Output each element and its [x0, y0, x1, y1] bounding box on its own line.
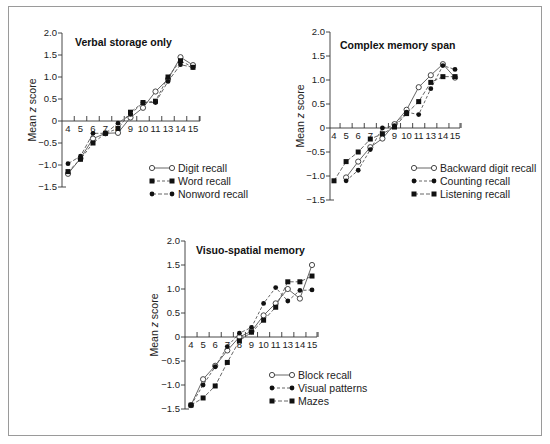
- y-tick-label: −1.0: [306, 170, 325, 181]
- y-tick-label: −1.0: [38, 159, 57, 170]
- legend-item: Counting recall: [412, 175, 510, 187]
- x-tick-label: 10: [138, 123, 149, 134]
- y-axis-label: Mean z score: [148, 293, 160, 356]
- filled-circle-marker-icon: [213, 364, 218, 369]
- figure-charts: 2.01.51.00.50−0.5−1.0−1.5456789101113141…: [0, 0, 550, 444]
- filled-circle-marker-icon: [66, 161, 71, 166]
- chart-title: Verbal storage only: [75, 36, 172, 48]
- x-tick-label: 13: [426, 130, 437, 141]
- filled-circle-marker-icon: [285, 299, 290, 304]
- x-tick-label: 11: [151, 123, 161, 134]
- filled-circle-marker-icon: [432, 179, 437, 184]
- x-tick-label: 15: [307, 339, 318, 350]
- legend-item: Nonword recall: [150, 188, 248, 200]
- filled-circle-marker-icon: [170, 192, 175, 197]
- legend-label: Backward digit recall: [440, 162, 536, 174]
- y-tick-label: −0.5: [38, 137, 57, 148]
- filled-circle-marker-icon: [225, 344, 230, 349]
- open-circle-marker-icon: [149, 165, 154, 170]
- y-tick-label: 1.5: [167, 259, 180, 270]
- y-axis-label-part: score: [148, 293, 160, 322]
- open-circle-marker-icon: [428, 73, 433, 78]
- open-circle-marker-icon: [169, 165, 174, 170]
- y-axis-label-part: Mean: [148, 330, 160, 356]
- filled-circle-marker-icon: [356, 168, 361, 173]
- series-block-recall: [188, 262, 314, 407]
- filled-circle-marker-icon: [116, 121, 121, 126]
- filled-circle-marker-icon: [368, 147, 373, 152]
- open-circle-marker-icon: [140, 105, 145, 110]
- open-circle-marker-icon: [309, 262, 314, 267]
- y-axis-label-part: score: [294, 84, 306, 113]
- x-tick-label: 13: [283, 339, 294, 350]
- y-axis-label-part: Mean: [26, 115, 38, 141]
- square-marker-icon: [290, 399, 295, 404]
- filled-circle-marker-icon: [91, 131, 96, 136]
- y-tick-label: −0.5: [161, 355, 180, 366]
- square-marker-icon: [297, 279, 302, 284]
- square-marker-icon: [273, 305, 278, 310]
- filled-circle-marker-icon: [273, 285, 278, 290]
- y-tick-label: 0: [175, 331, 180, 342]
- square-marker-icon: [66, 169, 71, 174]
- square-marker-icon: [189, 403, 194, 408]
- y-tick-label: 2.0: [167, 235, 180, 246]
- chart-visuo-spatial-memory: 2.01.51.00.50−0.5−1.0−1.5456789101113141…: [148, 235, 367, 414]
- filled-circle-marker-icon: [78, 154, 83, 159]
- square-marker-icon: [332, 178, 337, 183]
- filled-circle-marker-icon: [380, 126, 385, 131]
- chart-complex-memory-span: 2.01.51.00.50−0.5−1.0−1.5456789101113141…: [294, 26, 536, 205]
- open-circle-marker-icon: [431, 165, 436, 170]
- filled-circle-marker-icon: [298, 288, 303, 293]
- x-tick-label: 14: [438, 130, 449, 141]
- y-tick-label: −1.0: [161, 379, 180, 390]
- y-tick-label: 1.0: [44, 71, 57, 82]
- x-tick-label: 15: [188, 123, 199, 134]
- filled-circle-marker-icon: [103, 131, 108, 136]
- x-tick-label: 9: [128, 123, 133, 134]
- y-tick-label: 1.5: [44, 49, 57, 60]
- filled-circle-marker-icon: [153, 100, 158, 105]
- open-circle-marker-icon: [411, 165, 416, 170]
- square-marker-icon: [432, 192, 437, 197]
- square-marker-icon: [150, 179, 155, 184]
- filled-circle-marker-icon: [344, 178, 349, 183]
- square-marker-icon: [310, 274, 315, 279]
- square-marker-icon: [170, 179, 175, 184]
- chart-title: Visuo-spatial memory: [196, 244, 305, 256]
- legend-item: Block recall: [269, 369, 351, 381]
- square-marker-icon: [225, 360, 230, 365]
- legend-item: Backward digit recall: [411, 162, 536, 174]
- filled-circle-marker-icon: [128, 112, 133, 117]
- legend-label: Word recall: [178, 175, 231, 187]
- x-tick-label: 11: [414, 130, 424, 141]
- x-tick-label: 15: [450, 130, 461, 141]
- legend-label: Listening recall: [440, 188, 510, 200]
- open-circle-marker-icon: [289, 372, 294, 377]
- filled-circle-marker-icon: [441, 63, 446, 68]
- filled-circle-marker-icon: [261, 301, 266, 306]
- legend-label: Digit recall: [178, 162, 227, 174]
- square-marker-icon: [440, 74, 445, 79]
- y-tick-label: −0.5: [306, 146, 325, 157]
- x-tick-label: 5: [200, 339, 205, 350]
- y-tick-label: 0: [320, 122, 325, 133]
- filled-circle-marker-icon: [428, 86, 433, 91]
- open-circle-marker-icon: [115, 130, 120, 135]
- square-marker-icon: [412, 192, 417, 197]
- legend-label: Visual patterns: [298, 382, 367, 394]
- x-tick-label: 14: [175, 123, 186, 134]
- open-circle-marker-icon: [297, 296, 302, 301]
- legend-item: Listening recall: [412, 188, 511, 200]
- y-tick-label: 1.0: [167, 283, 180, 294]
- x-tick-label: 4: [331, 130, 336, 141]
- y-tick-label: −1.5: [161, 403, 180, 414]
- x-tick-label: 10: [258, 339, 269, 350]
- y-axis-label-part: Mean: [294, 121, 306, 147]
- y-tick-label: 1.0: [312, 74, 325, 85]
- filled-circle-marker-icon: [412, 179, 417, 184]
- y-tick-label: 1.5: [312, 50, 325, 61]
- x-tick-label: 4: [188, 339, 193, 350]
- y-axis-label: Mean z score: [26, 78, 38, 141]
- filled-circle-marker-icon: [290, 386, 295, 391]
